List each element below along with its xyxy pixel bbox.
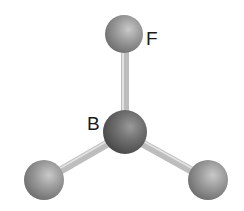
bond-b-f-left [58,142,110,172]
fluorine-atom-right [188,160,228,200]
bf3-molecule-model: F B [0,0,244,211]
boron-label: B [87,113,100,134]
boron-atom [103,110,147,154]
bond-b-f-right [140,142,194,172]
fluorine-atom-top [105,15,143,53]
fluorine-label: F [146,28,158,49]
fluorine-atom-left [24,160,64,200]
